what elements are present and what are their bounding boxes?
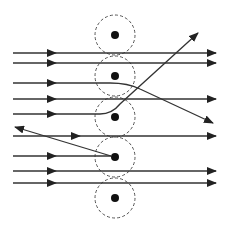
nucleus bbox=[111, 31, 119, 39]
ray-deflected-up bbox=[13, 33, 198, 114]
atom bbox=[95, 15, 135, 55]
ray-back-scattered bbox=[13, 127, 111, 156]
nucleus bbox=[111, 113, 119, 121]
atom bbox=[95, 97, 135, 137]
nucleus bbox=[111, 72, 119, 80]
nucleus bbox=[111, 194, 119, 202]
atoms-column bbox=[95, 15, 135, 218]
rutherford-scattering-diagram bbox=[0, 0, 229, 225]
atom bbox=[95, 56, 135, 96]
atom bbox=[95, 178, 135, 218]
nucleus bbox=[111, 153, 119, 161]
